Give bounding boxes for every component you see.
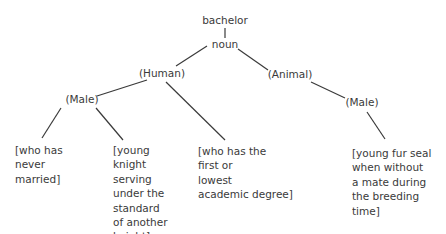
node-bachelor: bachelor bbox=[202, 14, 248, 26]
node-human: (Human) bbox=[139, 67, 185, 79]
node-animal: (Animal) bbox=[268, 68, 313, 80]
edge-animal-male bbox=[311, 82, 345, 98]
leaf-fur-seal: [young fur seal when without a mate duri… bbox=[352, 146, 431, 218]
edge-human-male bbox=[97, 80, 147, 96]
leaf-never-married: [who has never married] bbox=[15, 143, 63, 186]
node-male-human: (Male) bbox=[65, 93, 98, 105]
edge-noun-animal bbox=[238, 49, 268, 70]
leaf-young-knight: [young knight serving under the standard… bbox=[113, 143, 168, 234]
node-noun: noun bbox=[212, 38, 238, 50]
edge-male-seal bbox=[367, 112, 385, 139]
edge-human-degree bbox=[166, 82, 225, 140]
node-male-animal: (Male) bbox=[345, 96, 378, 108]
leaf-academic-degree: [who has the first or lowest academic de… bbox=[198, 144, 293, 202]
edge-male-knight bbox=[96, 108, 123, 140]
edge-noun-human bbox=[176, 46, 207, 66]
edge-male-married bbox=[42, 108, 61, 138]
